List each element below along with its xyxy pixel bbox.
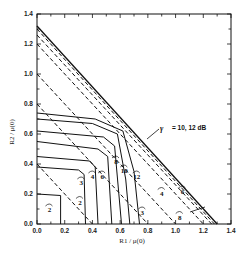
curve-label: 3 bbox=[141, 209, 145, 217]
x-tick-label: 0.4 bbox=[88, 227, 97, 234]
y-tick-label: 0.2 bbox=[24, 190, 33, 197]
curve-label: 4 bbox=[160, 190, 164, 198]
annotation-pointer bbox=[147, 129, 159, 139]
y-axis-title: R2 / μ(0) bbox=[8, 119, 16, 145]
x-axis-title: R1 / μ(0) bbox=[119, 237, 145, 245]
dashed-curve bbox=[37, 44, 203, 224]
rate-region-chart: 22346810123468 0.00.20.40.60.81.01.21.40… bbox=[0, 0, 245, 255]
curve-label: 2 bbox=[78, 199, 82, 207]
label-8-pointer bbox=[190, 207, 205, 212]
solid-curve bbox=[37, 157, 98, 225]
y-tick-label: 1.2 bbox=[24, 40, 33, 47]
y-tick-label: 0.8 bbox=[24, 100, 33, 107]
curve-label: 6 bbox=[181, 188, 185, 196]
curve-label: 8 bbox=[114, 158, 118, 166]
x-tick-label: 1.4 bbox=[226, 227, 235, 234]
x-tick-label: 0.0 bbox=[32, 227, 41, 234]
y-tick-label: 1.4 bbox=[24, 10, 33, 17]
curve-label: 4 bbox=[91, 173, 95, 181]
dashed-curve bbox=[37, 164, 92, 224]
y-tick-label: 0.0 bbox=[24, 220, 33, 227]
plot-frame bbox=[37, 14, 231, 224]
gamma-symbol: γ bbox=[160, 124, 164, 133]
x-tick-label: 0.8 bbox=[143, 227, 152, 234]
curve-label: 8 bbox=[178, 214, 182, 222]
gamma-value-text: = 10, 12 dB bbox=[172, 124, 206, 132]
x-tick-label: 1.0 bbox=[171, 227, 180, 234]
y-tick-label: 0.6 bbox=[24, 130, 33, 137]
solid-curve bbox=[37, 167, 86, 224]
axis-ticks bbox=[37, 14, 231, 224]
x-tick-label: 0.6 bbox=[116, 227, 125, 234]
curve-label: 3 bbox=[80, 179, 84, 187]
dashed-curve bbox=[37, 104, 148, 224]
curve-label: 2 bbox=[48, 206, 52, 214]
dashed-curve bbox=[37, 74, 176, 224]
curve-label: 12 bbox=[133, 173, 141, 181]
curve-label: 10 bbox=[121, 167, 129, 175]
tick-labels: 0.00.20.40.60.81.01.21.40.00.20.40.60.81… bbox=[24, 10, 236, 234]
x-tick-label: 0.2 bbox=[60, 227, 69, 234]
curve-label: 6 bbox=[100, 173, 104, 181]
gamma-annotation: γ = 10, 12 dB bbox=[147, 124, 206, 139]
x-tick-label: 1.2 bbox=[199, 227, 208, 234]
y-tick-label: 0.4 bbox=[24, 160, 33, 167]
y-tick-label: 1.0 bbox=[24, 70, 33, 77]
